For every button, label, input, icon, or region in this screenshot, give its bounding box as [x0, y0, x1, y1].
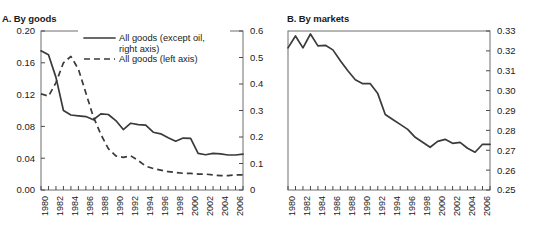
panel-b-year-label: 2006: [482, 196, 492, 216]
panel-a-right-axis-label: 0.5: [250, 52, 263, 63]
panel-b-year-label: 1982: [302, 196, 312, 216]
panel-b-right-axis-label: 0.30: [497, 85, 516, 96]
panel-a-year-label: 1994: [145, 196, 155, 216]
panel-b-year-label: 1986: [332, 196, 342, 216]
panel-a-left-axis-label: 0.12: [17, 89, 36, 100]
panel-b-year-label: 1988: [347, 196, 357, 216]
panel-a-year-label: 1990: [115, 196, 125, 216]
panel-a-right-axis-label: 0.6: [250, 25, 263, 36]
panel-a-right-axis-label: 0.4: [250, 78, 263, 89]
panel-a-left-axis-label: 0.08: [17, 121, 36, 132]
panel-b-right-axis-label: 0.27: [497, 145, 516, 156]
panel-b-year-label: 1992: [377, 196, 387, 216]
panel-a-year-label: 2004: [220, 196, 230, 216]
panel-a-right-axis-label: 0.2: [250, 131, 263, 142]
panel-a-year-label: 1980: [40, 196, 50, 216]
panel-b-year-label: 1980: [287, 196, 297, 216]
panel-a-year-label: 1998: [175, 196, 185, 216]
panel-a-right-axis-label: 0: [250, 184, 255, 195]
panel-a-year-label: 1986: [85, 196, 95, 216]
panel-a-left-axis-label: 0.20: [17, 25, 36, 36]
panel-b-year-label: 2002: [452, 196, 462, 216]
panel-b-right-axis-label: 0.26: [497, 165, 516, 176]
panel-a-year-label: 1982: [55, 196, 65, 216]
panel-b-right-axis-label: 0.31: [497, 65, 516, 76]
panel-a-right-axis-label: 0.1: [250, 158, 263, 169]
panel-a-series-all-goods-except-oil: [41, 51, 243, 155]
panel-a-by-goods: A. By goods 0.000.040.080.120.160.2000.1…: [0, 0, 270, 248]
panel-b-year-label: 2000: [437, 196, 447, 216]
panel-b-right-axis-label: 0.33: [497, 25, 516, 36]
panel-a-legend-label-1-line2: right axis): [119, 44, 159, 54]
panel-a-legend-label-2: All goods (left axis): [119, 54, 198, 64]
panel-a-year-label: 1984: [70, 196, 80, 216]
panel-a-left-axis-label: 0.16: [17, 57, 36, 68]
panel-a-year-label: 2002: [205, 196, 215, 216]
panel-b-year-label: 2004: [467, 196, 477, 216]
panel-a-legend-label-1: All goods (except oil,: [119, 33, 205, 43]
panel-b-year-label: 1984: [317, 196, 327, 216]
panel-b-year-label: 1994: [392, 196, 402, 216]
panel-b-year-label: 1996: [407, 196, 417, 216]
panel-b-year-label: 1990: [362, 196, 372, 216]
panel-b-by-markets: B. By markets 0.250.260.270.280.290.300.…: [268, 0, 538, 248]
panel-a-year-label: 2000: [190, 196, 200, 216]
panel-a-year-label: 2006: [235, 196, 245, 216]
panel-a-left-axis-label: 0.00: [17, 184, 36, 195]
panel-b-right-axis-label: 0.28: [497, 125, 516, 136]
panel-b-year-label: 1998: [422, 196, 432, 216]
panel-b-right-axis-label: 0.25: [497, 184, 516, 195]
panel-b-right-axis-label: 0.32: [497, 45, 516, 56]
panel-a-year-label: 1992: [130, 196, 140, 216]
panel-b-frame: [288, 31, 490, 190]
panel-a-plot: 0.000.040.080.120.160.2000.10.20.30.40.5…: [0, 0, 270, 248]
figure-container: A. By goods 0.000.040.080.120.160.2000.1…: [0, 0, 538, 248]
panel-a-year-label: 1988: [100, 196, 110, 216]
panel-b-plot: 0.250.260.270.280.290.300.310.320.331980…: [268, 0, 538, 248]
panel-b-right-axis-label: 0.29: [497, 105, 516, 116]
panel-a-series-all-goods: [41, 56, 243, 175]
panel-a-left-axis-label: 0.04: [17, 153, 36, 164]
panel-b-series-by-markets: [288, 34, 490, 152]
panel-a-year-label: 1996: [160, 196, 170, 216]
panel-a-right-axis-label: 0.3: [250, 105, 263, 116]
